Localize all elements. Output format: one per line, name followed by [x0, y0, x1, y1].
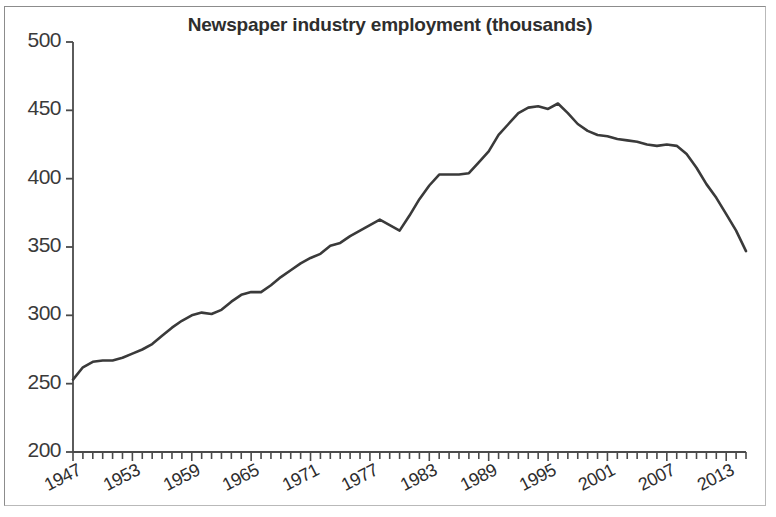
y-axis-tick-label: 250 — [3, 370, 61, 394]
y-axis-tick-label: 350 — [3, 233, 61, 257]
y-axis-tick-label: 200 — [3, 438, 61, 462]
y-axis-tick-label: 500 — [3, 28, 61, 52]
line-chart-plot — [0, 0, 776, 517]
y-axis-tick-label: 400 — [3, 165, 61, 189]
y-axis-tick-label: 450 — [3, 96, 61, 120]
chart-figure: Newspaper industry employment (thousands… — [0, 0, 776, 517]
y-axis-tick-label: 300 — [3, 301, 61, 325]
